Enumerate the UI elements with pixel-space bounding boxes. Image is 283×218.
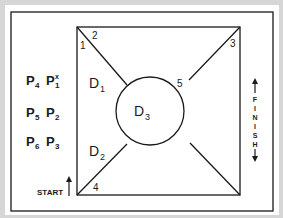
start-arrow-icon [66, 176, 72, 196]
diagonal-bottom-right [190, 143, 240, 195]
svg-text:2: 2 [100, 152, 105, 162]
region-label-d3: D 3 [134, 103, 150, 122]
finish-label: F I N I S H [252, 96, 257, 148]
svg-text:D: D [134, 103, 144, 119]
svg-text:1: 1 [100, 84, 105, 94]
diagonal-top-left [77, 27, 127, 85]
player-row-3: P 6 P 3 [26, 134, 60, 151]
svg-text:P: P [26, 105, 35, 120]
diagonal-top-right [189, 27, 240, 80]
svg-text:6: 6 [35, 142, 40, 151]
finish-arrow-up-icon [252, 78, 258, 93]
start-label: START [37, 188, 63, 197]
diagram-canvas: 1 2 3 4 5 D 1 D 3 D 2 P 4 P 1 x P 5 P [0, 0, 283, 218]
svg-text:D: D [89, 75, 99, 91]
corner-label-4: 4 [93, 182, 99, 193]
svg-text:5: 5 [35, 113, 40, 122]
svg-text:H: H [252, 141, 257, 148]
player-row-2: P 5 P 2 [26, 105, 60, 122]
diagram-stage: 1 2 3 4 5 D 1 D 3 D 2 P 4 P 1 x P 5 P [0, 0, 283, 218]
player-row-1: P 4 P 1 x [26, 73, 60, 90]
corner-label-2: 2 [92, 30, 98, 41]
svg-text:3: 3 [55, 142, 60, 151]
svg-text:I: I [254, 105, 256, 112]
center-circle [116, 77, 184, 145]
svg-text:P: P [46, 105, 55, 120]
corner-label-5: 5 [177, 78, 183, 89]
svg-text:P: P [26, 73, 35, 88]
svg-text:P: P [46, 73, 55, 88]
svg-text:P: P [26, 134, 35, 149]
svg-text:2: 2 [55, 113, 60, 122]
svg-text:3: 3 [145, 112, 150, 122]
svg-text:4: 4 [35, 81, 40, 90]
svg-text:I: I [254, 123, 256, 130]
svg-text:x: x [55, 73, 59, 80]
svg-text:F: F [253, 96, 258, 103]
region-label-d2: D 2 [89, 143, 105, 162]
svg-text:N: N [252, 114, 257, 121]
corner-label-1: 1 [80, 40, 86, 51]
corner-label-3: 3 [230, 38, 236, 49]
svg-text:1: 1 [55, 81, 60, 90]
svg-text:D: D [89, 143, 99, 159]
svg-text:S: S [253, 132, 258, 139]
svg-text:P: P [46, 134, 55, 149]
region-label-d1: D 1 [89, 75, 105, 94]
finish-arrow-down-icon [252, 149, 258, 162]
